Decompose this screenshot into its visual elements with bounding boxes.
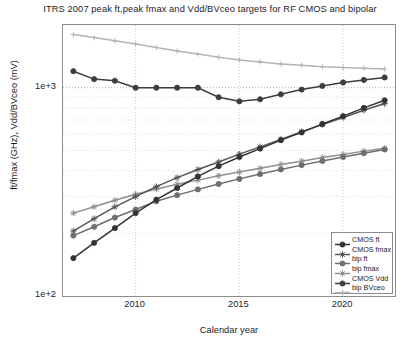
plus-marker-icon [334,283,351,292]
series-bip-ft [71,147,387,238]
series-bip-bvceo [71,32,387,72]
series-cmos-fmax [70,100,388,234]
chart-legend: CMOS ftCMOS fmaxbip ftbip fmaxCMOS Vddbi… [331,232,393,294]
y-tick-label-1e2: 1e+2 [4,289,56,299]
legend-label: bip fmax [352,264,379,273]
legend-label: bip ft [352,254,368,263]
x-tick-label-2015: 2015 [213,299,263,309]
circle-marker-icon [334,254,351,263]
x-tick-label-2010: 2010 [110,299,160,309]
legend-item-cmos-fmax[interactable]: CMOS fmax [334,245,390,255]
star-marker-icon [334,264,351,273]
x-axis-label: Calendar year [62,325,396,335]
star-marker-icon [334,245,351,254]
y-tick-label-1e3: 1e+3 [4,81,56,91]
x-tick-label-2020: 2020 [317,299,367,309]
circle-marker-icon [334,274,351,283]
legend-item-cmos-ft[interactable]: CMOS ft [334,235,390,245]
chart-figure: ITRS 2007 peak ft,peak fmax and Vdd/BVce… [0,0,420,347]
legend-label: CMOS Vdd [352,274,388,283]
series-cmos-vdd [71,69,387,104]
y-axis-label: ft/fmax (GHz), Vdd/BVceo (mV) [9,0,19,255]
legend-label: bip BVceo [352,283,385,292]
chart-title: ITRS 2007 peak ft,peak fmax and Vdd/BVce… [0,4,420,14]
legend-label: CMOS fmax [352,245,391,254]
circle-marker-icon [334,235,351,244]
legend-label: CMOS ft [352,235,380,244]
legend-item-bip-ft[interactable]: bip ft [334,254,390,264]
legend-item-cmos-vdd[interactable]: CMOS Vdd [334,273,390,283]
legend-item-bip-fmax[interactable]: bip fmax [334,264,390,274]
legend-item-bip-bvceo[interactable]: bip BVceo [334,283,390,293]
